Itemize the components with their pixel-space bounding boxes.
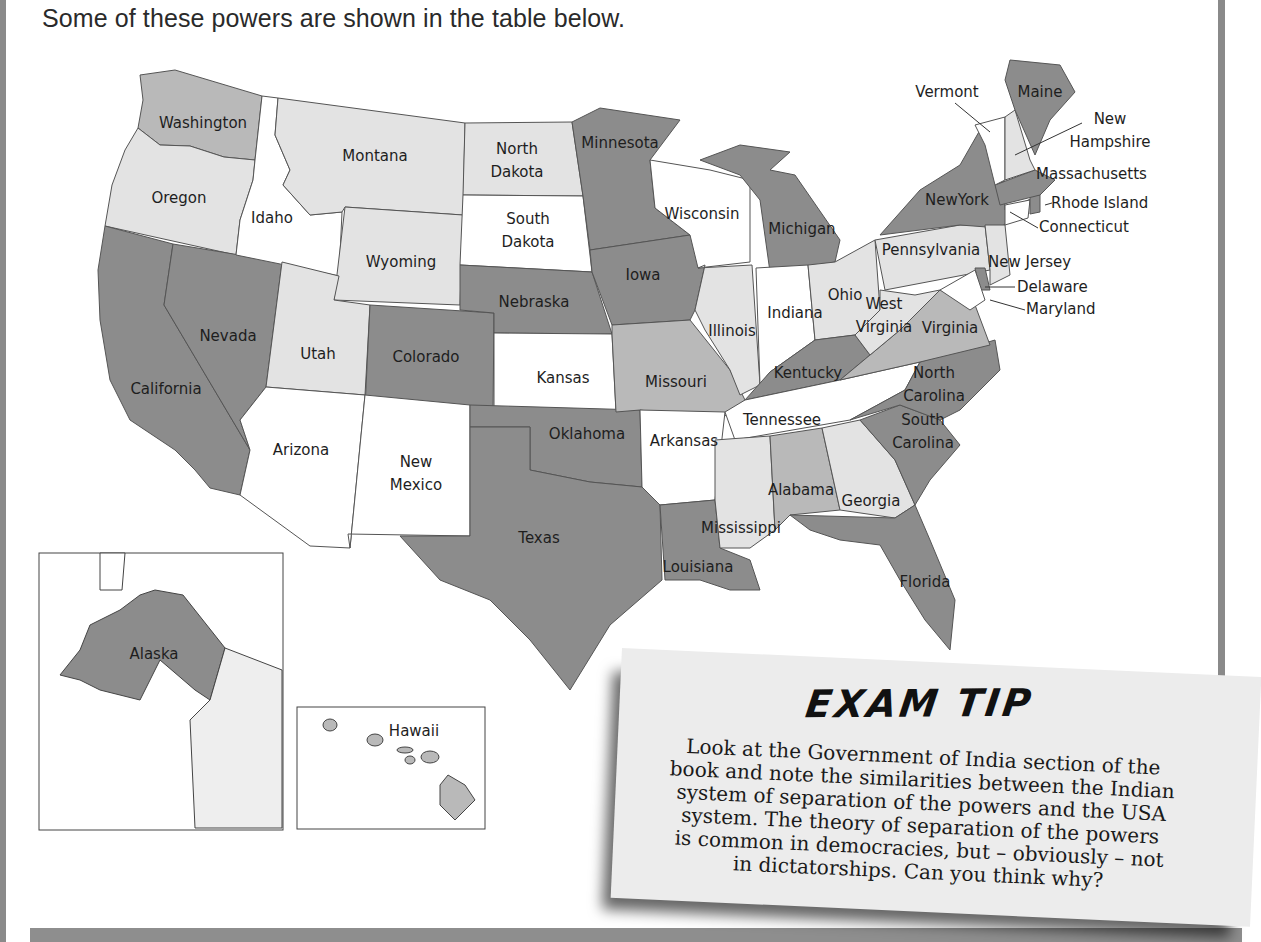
label-south-carolina: SouthCarolina xyxy=(892,409,954,455)
label-california: California xyxy=(130,378,201,401)
exam-tip-title: EXAM TIP xyxy=(617,679,1223,727)
label-idaho: Idaho xyxy=(251,207,293,230)
russia-region xyxy=(100,553,125,590)
label-maine: Maine xyxy=(1017,81,1062,104)
label-massachusetts: Massachusetts xyxy=(1036,163,1147,186)
label-georgia: Georgia xyxy=(842,490,901,513)
label-new-hampshire: NewHampshire xyxy=(1069,108,1150,154)
label-new-york: NewYork xyxy=(925,189,989,212)
label-alaska: Alaska xyxy=(129,643,178,666)
label-nebraska: Nebraska xyxy=(499,291,570,314)
label-north-carolina: NorthCarolina xyxy=(903,362,965,408)
label-minnesota: Minnesota xyxy=(581,132,658,155)
label-wyoming: Wyoming xyxy=(366,251,436,274)
label-delaware: Delaware xyxy=(1017,276,1088,299)
label-montana: Montana xyxy=(342,145,407,168)
state-rhode-island xyxy=(1030,195,1040,214)
label-tennessee: Tennessee xyxy=(743,409,821,432)
label-iowa: Iowa xyxy=(625,264,660,287)
label-florida: Florida xyxy=(899,571,950,594)
label-rhode-island: Rhode Island xyxy=(1051,192,1148,215)
exam-tip-box: EXAM TIP Look at the Government of India… xyxy=(611,648,1261,927)
label-oregon: Oregon xyxy=(151,187,206,210)
label-virginia: Virginia xyxy=(922,317,979,340)
label-missouri: Missouri xyxy=(645,371,707,394)
label-arkansas: Arkansas xyxy=(650,430,718,453)
label-wisconsin: Wisconsin xyxy=(665,203,740,226)
label-mississippi: Mississippi xyxy=(701,517,781,540)
label-arizona: Arizona xyxy=(273,439,329,462)
label-connecticut: Connecticut xyxy=(1039,216,1129,239)
label-new-jersey: New Jersey xyxy=(988,251,1071,274)
label-utah: Utah xyxy=(300,343,336,366)
label-texas: Texas xyxy=(518,527,559,550)
label-alabama: Alabama xyxy=(768,479,834,502)
label-kentucky: Kentucky xyxy=(774,362,843,385)
label-south-dakota: SouthDakota xyxy=(501,208,554,254)
label-vermont: Vermont xyxy=(915,81,978,104)
label-illinois: Illinois xyxy=(708,320,756,343)
label-hawaii: Hawaii xyxy=(389,720,439,743)
exam-tip-body: Look at the Government of India section … xyxy=(628,733,1214,897)
state-arizona xyxy=(240,387,365,548)
label-kansas: Kansas xyxy=(536,367,589,390)
label-washington: Washington xyxy=(159,112,247,135)
label-nevada: Nevada xyxy=(199,325,256,348)
label-pennsylvania: Pennsylvania xyxy=(882,239,981,262)
label-colorado: Colorado xyxy=(392,346,459,369)
state-arkansas xyxy=(640,410,725,505)
label-louisiana: Louisiana xyxy=(663,556,734,579)
label-new-mexico: NewMexico xyxy=(390,451,442,497)
label-north-dakota: NorthDakota xyxy=(490,138,543,184)
label-maryland: Maryland xyxy=(1026,298,1096,321)
label-west-virginia: WestVirginia xyxy=(856,293,913,339)
label-indiana: Indiana xyxy=(767,302,823,325)
label-oklahoma: Oklahoma xyxy=(549,423,625,446)
label-michigan: Michigan xyxy=(768,218,835,241)
